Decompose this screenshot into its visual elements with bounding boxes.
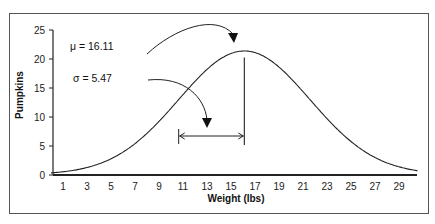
chart: 0510152025 1357911131517192123252729 μ =… (0, 0, 435, 224)
mu-arrowhead (228, 33, 238, 43)
x-tick-label: 29 (393, 181, 405, 192)
y-tick-label: 15 (34, 83, 46, 94)
x-tick-label: 11 (178, 181, 189, 192)
normal-curve (51, 51, 417, 173)
x-tick-label: 1 (60, 181, 66, 192)
x-tick-label: 3 (84, 181, 90, 192)
y-tick-label: 5 (39, 141, 45, 152)
x-tick-label: 5 (108, 181, 114, 192)
x-axis-title: Weight (lbs) (207, 193, 264, 204)
x-tick-label: 13 (201, 181, 213, 192)
x-tick-label: 17 (249, 181, 261, 192)
x-axis-ticks: 1357911131517192123252729 (60, 181, 405, 192)
sigma-span (179, 129, 244, 144)
y-tick-label: 25 (34, 25, 46, 36)
y-tick-label: 10 (34, 112, 46, 123)
x-tick-label: 23 (321, 181, 333, 192)
sigma-arrowhead (202, 118, 212, 128)
x-tick-label: 15 (225, 181, 237, 192)
x-tick-label: 21 (297, 181, 309, 192)
x-tick-label: 9 (156, 181, 162, 192)
mu-annotation: μ = 16.11 (70, 40, 114, 52)
y-axis-ticks: 0510152025 (34, 25, 53, 181)
y-tick-label: 20 (34, 54, 46, 65)
sigma-arrow (148, 80, 207, 120)
x-tick-label: 19 (273, 181, 285, 192)
x-tick-label: 27 (369, 181, 381, 192)
x-tick-label: 7 (132, 181, 138, 192)
x-tick-label: 25 (345, 181, 357, 192)
mu-arrow (147, 25, 233, 54)
y-tick-label: 0 (39, 170, 45, 181)
sigma-annotation: σ = 5.47 (73, 72, 112, 84)
y-axis-title: Pumpkins (14, 71, 25, 119)
